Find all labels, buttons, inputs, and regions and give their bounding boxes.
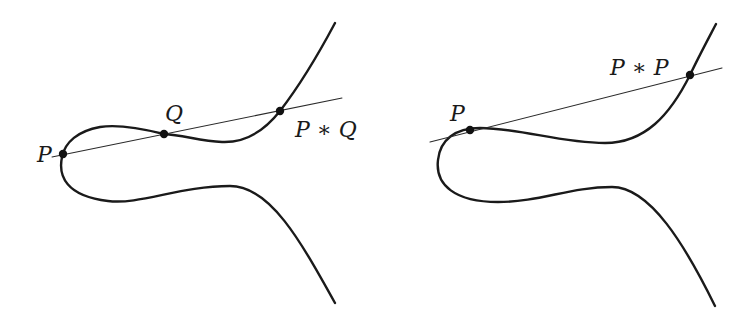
point-q-left	[160, 130, 168, 138]
label-p-left: P	[36, 142, 53, 167]
label-p-right: P	[449, 101, 466, 126]
label-p-star-p: P ∗ P	[609, 55, 670, 80]
elliptic-curve-diagram: P Q P ∗ Q P P ∗ P	[0, 0, 749, 322]
point-p-right	[466, 126, 474, 134]
label-p-star-q: P ∗ Q	[294, 117, 357, 142]
point-p-star-q	[276, 107, 284, 115]
figure-right-tangent: P P ∗ P	[430, 24, 722, 306]
point-p-star-p	[686, 71, 694, 79]
elliptic-curve-right	[438, 24, 716, 306]
point-p-left	[59, 150, 67, 158]
figure-left-secant: P Q P ∗ Q	[36, 23, 357, 303]
elliptic-curve-left	[61, 23, 335, 303]
label-q-left: Q	[165, 101, 183, 126]
